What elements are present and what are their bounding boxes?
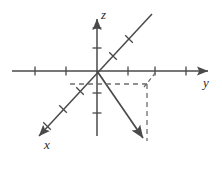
x-axis <box>39 14 152 136</box>
dashed-diagonal-to-y-axis <box>144 71 157 87</box>
position-vector-line <box>97 71 143 138</box>
y-axis-label: y <box>203 76 209 89</box>
y-axis <box>12 67 208 76</box>
coordinate-axes-figure: z y x <box>0 0 222 169</box>
axes-diagram-canvas <box>0 0 222 169</box>
z-axis-label: z <box>101 8 106 21</box>
x-axis-line <box>39 14 152 136</box>
dashed-projection-lines <box>70 71 157 141</box>
x-axis-label: x <box>44 138 50 151</box>
position-vector <box>97 71 143 138</box>
